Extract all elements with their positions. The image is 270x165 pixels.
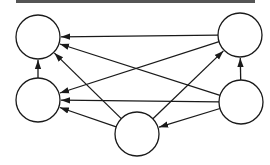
- node-top-right: [218, 13, 262, 57]
- edge-D-to-A: [60, 44, 220, 95]
- node-middle-right: [219, 80, 263, 124]
- node-middle-left: [16, 78, 60, 122]
- edge-D-to-E: [159, 109, 220, 128]
- edge-D-to-C: [61, 100, 219, 102]
- edge-B-to-A: [61, 35, 218, 37]
- directed-graph-canvas: [0, 0, 270, 165]
- edge-E-to-B: [153, 51, 224, 119]
- node-bottom-center: [115, 112, 159, 156]
- nodes-group: [16, 13, 263, 156]
- edge-E-to-C: [60, 108, 116, 127]
- node-top-left: [16, 15, 60, 59]
- edge-B-to-C: [60, 42, 219, 93]
